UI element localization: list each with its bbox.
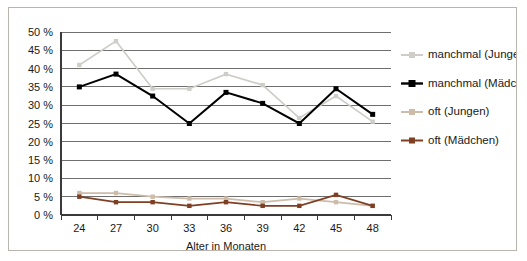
series-line <box>79 74 372 123</box>
data-point-marker <box>150 195 154 199</box>
y-axis-tick-label: 50 % <box>28 26 53 38</box>
legend-label: manchmal (Mädchen) <box>428 77 516 89</box>
legend-swatch-marker <box>409 109 415 115</box>
y-axis-tick-label: 15 % <box>28 154 53 166</box>
data-point-marker <box>114 200 118 204</box>
legend-label: oft (Mädchen) <box>428 134 499 146</box>
x-axis-tick-label: 42 <box>293 222 305 234</box>
data-point-marker <box>334 200 338 204</box>
data-point-marker <box>370 204 374 208</box>
y-axis-tick-label: 25 % <box>28 118 53 130</box>
data-point-marker <box>297 196 301 200</box>
data-point-marker <box>297 204 301 208</box>
data-point-marker <box>260 204 264 208</box>
data-point-marker <box>370 112 375 117</box>
y-axis-tick-label: 30 % <box>28 99 53 111</box>
data-point-marker <box>334 86 339 91</box>
chart-figure-frame: 0 %5 %10 %15 %20 %25 %30 %35 %40 %45 %50… <box>8 7 517 251</box>
data-point-marker <box>187 204 191 208</box>
x-axis-tick-label: 36 <box>220 222 232 234</box>
data-point-marker <box>150 87 154 91</box>
x-axis-tick-label: 30 <box>147 222 159 234</box>
legend-label: oft (Jungen) <box>428 105 490 117</box>
data-point-marker <box>260 83 264 87</box>
y-axis-tick-label: 5 % <box>34 191 53 203</box>
chart-legend: manchmal (Jungen)manchmal (Mädchen)oft (… <box>401 48 516 146</box>
data-point-marker <box>77 84 82 89</box>
series-line <box>79 41 372 122</box>
line-chart: 0 %5 %10 %15 %20 %25 %30 %35 %40 %45 %50… <box>9 8 516 250</box>
x-axis-tick-label: 45 <box>330 222 342 234</box>
data-point-marker <box>370 119 374 123</box>
series-manchmal-jungen <box>77 39 375 124</box>
legend-item[interactable]: manchmal (Mädchen) <box>401 77 516 89</box>
y-axis-tick-label: 0 % <box>34 209 53 221</box>
data-point-marker <box>334 193 338 197</box>
legend-swatch-marker <box>409 138 415 144</box>
data-point-marker <box>150 200 154 204</box>
series-oft-jungen <box>77 191 375 208</box>
legend-swatch-marker <box>409 80 416 87</box>
y-axis-tick-label: 20 % <box>28 136 53 148</box>
legend-label: manchmal (Jungen) <box>428 48 516 60</box>
data-point-marker <box>114 39 118 43</box>
data-point-marker <box>224 72 228 76</box>
x-axis-title: Alter in Monaten <box>186 240 266 250</box>
series-oft-m-dchen <box>77 193 375 208</box>
data-point-marker <box>297 121 302 126</box>
data-point-marker <box>150 94 155 99</box>
data-point-marker <box>260 101 265 106</box>
legend-item[interactable]: oft (Jungen) <box>401 105 490 117</box>
y-axis-tick-label: 40 % <box>28 63 53 75</box>
x-axis-tick-labels: 242730333639424548 <box>73 222 379 234</box>
data-point-marker <box>77 195 81 199</box>
chart-axes <box>61 32 391 220</box>
data-point-marker <box>187 121 192 126</box>
data-point-marker <box>114 72 119 77</box>
data-point-marker <box>187 87 191 91</box>
data-point-marker <box>334 94 338 98</box>
data-point-marker <box>297 116 301 120</box>
legend-item[interactable]: manchmal (Jungen) <box>401 48 516 60</box>
x-axis-tick-label: 39 <box>257 222 269 234</box>
x-axis-tick-label: 27 <box>110 222 122 234</box>
x-axis-tick-label: 24 <box>73 222 85 234</box>
data-point-marker <box>114 191 118 195</box>
legend-item[interactable]: oft (Mädchen) <box>401 134 499 146</box>
y-axis-tick-label: 10 % <box>28 172 53 184</box>
data-point-marker <box>77 63 81 67</box>
y-axis-tick-label: 45 % <box>28 44 53 56</box>
legend-swatch-marker <box>409 52 415 58</box>
x-axis-tick-label: 33 <box>183 222 195 234</box>
data-point-marker <box>224 90 229 95</box>
y-axis-tick-label: 35 % <box>28 81 53 93</box>
x-axis-tick-label: 48 <box>367 222 379 234</box>
data-point-marker <box>224 200 228 204</box>
data-point-marker <box>187 196 191 200</box>
y-axis-tick-labels: 0 %5 %10 %15 %20 %25 %30 %35 %40 %45 %50… <box>28 26 53 221</box>
gridlines <box>61 32 391 197</box>
